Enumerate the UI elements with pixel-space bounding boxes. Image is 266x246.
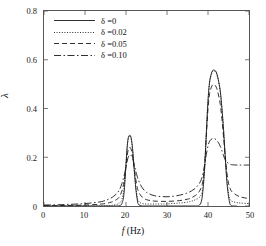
y-tick-label-1: 0.2: [5, 154, 37, 163]
y-tick-label-3: 0.6: [5, 56, 37, 65]
legend-label-0: δ =0: [101, 17, 116, 26]
curve-series-1: [44, 71, 249, 206]
x-tick-label-3: 30: [157, 211, 177, 220]
legend-label-1: δ =0.02: [101, 28, 127, 37]
figure-container: 0 0.2 0.4 0.6 0.8 0 10 20 30 40 50 λ f (…: [0, 0, 266, 246]
x-tick-label-4: 40: [198, 211, 218, 220]
legend-item-1: δ =0.02: [53, 27, 163, 39]
legend-label-3: δ =0.10: [101, 51, 127, 60]
legend-label-2: δ =0.05: [101, 40, 127, 49]
curve-series-3: [44, 138, 249, 205]
x-tick-label-5: 50: [240, 211, 260, 220]
legend-item-2: δ =0.05: [53, 38, 163, 50]
legend-line-sample-dashed: [53, 39, 96, 48]
x-tick-label-2: 20: [115, 211, 135, 220]
y-tick-label-4: 0.8: [5, 7, 37, 16]
x-tick-label-0: 0: [33, 211, 53, 220]
legend: δ =0 δ =0.02 δ =0.05 δ =0.10: [53, 15, 163, 61]
x-tick-label-1: 10: [74, 211, 94, 220]
legend-line-sample-dashdot: [53, 51, 96, 60]
x-axis-title-unit: (Hz): [124, 226, 144, 236]
legend-item-3: δ =0.10: [53, 50, 163, 62]
legend-line-sample-solid: [53, 16, 96, 25]
y-axis-title: λ: [0, 93, 10, 98]
y-tick-label-2: 0.4: [5, 105, 37, 114]
curve-series-2: [44, 84, 249, 205]
x-axis-title: f (Hz): [0, 226, 266, 236]
curve-series-0: [44, 70, 237, 206]
legend-item-0: δ =0: [53, 15, 163, 27]
legend-line-sample-dotted: [53, 28, 96, 37]
